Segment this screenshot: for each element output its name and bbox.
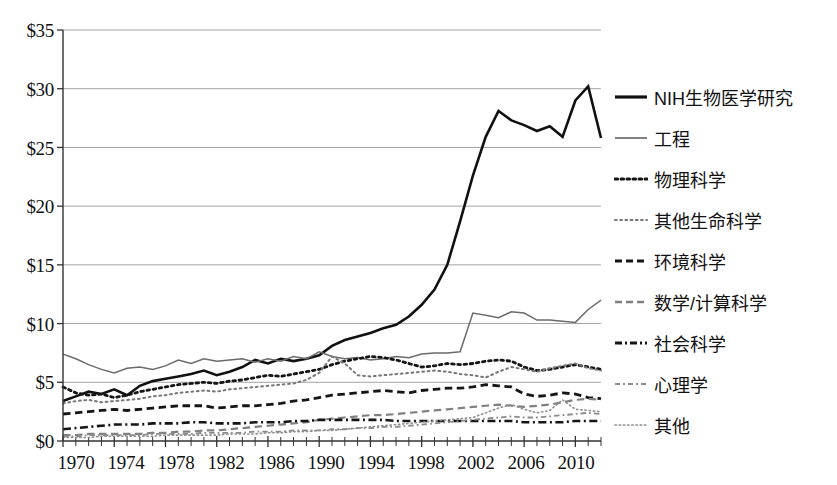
legend-item[interactable]: 其他生命科学	[614, 199, 837, 240]
series-line	[63, 420, 601, 429]
legend-line-swatch-icon	[614, 254, 648, 268]
legend-label: 社会科学	[654, 330, 726, 356]
legend-line-swatch-icon	[614, 131, 648, 145]
legend-item[interactable]: 社会科学	[614, 322, 837, 363]
series-line	[63, 385, 601, 414]
legend-label: 心理学	[654, 371, 708, 397]
legend-label: NIH生物医学研究	[654, 84, 793, 110]
legend-line-swatch-icon	[614, 295, 648, 309]
legend-label: 数学/计算科学	[654, 289, 767, 315]
chart-container: $35 $30 $25 $20 $15 $10 $5 $0 1970 1974 …	[0, 0, 837, 485]
legend-line-swatch-icon	[614, 172, 648, 186]
legend-label: 工程	[654, 125, 690, 151]
legend-item[interactable]: 工程	[614, 117, 837, 158]
y-axis-major-ticks	[57, 30, 63, 441]
legend-item[interactable]: 其他	[614, 404, 837, 445]
legend-item[interactable]: NIH生物医学研究	[614, 76, 837, 117]
legend-line-swatch-icon	[614, 90, 648, 104]
legend-line-swatch-icon	[614, 377, 648, 391]
series-lines	[63, 86, 601, 437]
gridlines	[63, 30, 601, 382]
legend-line-swatch-icon	[614, 213, 648, 227]
legend-item[interactable]: 数学/计算科学	[614, 281, 837, 322]
legend-item[interactable]: 物理科学	[614, 158, 837, 199]
legend: NIH生物医学研究 工程 物理科学 其他生命科学 环境科学 数学/计算科学 社会…	[614, 76, 837, 445]
legend-label: 物理科学	[654, 166, 726, 192]
legend-line-swatch-icon	[614, 418, 648, 432]
series-line	[63, 300, 601, 373]
legend-item[interactable]: 环境科学	[614, 240, 837, 281]
legend-label: 其他生命科学	[654, 207, 762, 233]
legend-label: 其他	[654, 412, 690, 438]
series-line	[63, 86, 601, 401]
legend-line-swatch-icon	[614, 336, 648, 350]
legend-label: 环境科学	[654, 248, 726, 274]
legend-item[interactable]: 心理学	[614, 363, 837, 404]
